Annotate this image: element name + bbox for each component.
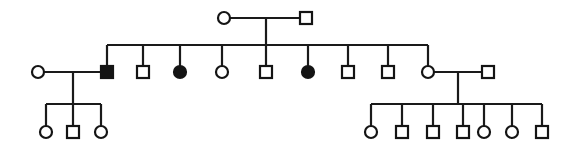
affected-male-symbol[interactable] (101, 66, 113, 78)
unaffected-female-symbol[interactable] (478, 126, 490, 138)
unaffected-female-symbol[interactable] (422, 66, 434, 78)
unaffected-female-symbol[interactable] (365, 126, 377, 138)
unaffected-male-symbol[interactable] (137, 66, 149, 78)
unaffected-male-symbol[interactable] (396, 126, 408, 138)
pedigree-chart (0, 0, 576, 149)
unaffected-female-symbol[interactable] (40, 126, 52, 138)
affected-female-symbol[interactable] (302, 66, 314, 78)
unaffected-male-symbol[interactable] (427, 126, 439, 138)
unaffected-male-symbol[interactable] (300, 12, 312, 24)
unaffected-male-symbol[interactable] (67, 126, 79, 138)
unaffected-female-symbol[interactable] (32, 66, 44, 78)
unaffected-male-symbol[interactable] (342, 66, 354, 78)
unaffected-male-symbol[interactable] (260, 66, 272, 78)
pedigree-canvas (0, 0, 576, 149)
unaffected-female-symbol[interactable] (95, 126, 107, 138)
affected-female-symbol[interactable] (174, 66, 186, 78)
unaffected-female-symbol[interactable] (218, 12, 230, 24)
unaffected-male-symbol[interactable] (482, 66, 494, 78)
unaffected-female-symbol[interactable] (216, 66, 228, 78)
unaffected-male-symbol[interactable] (457, 126, 469, 138)
unaffected-male-symbol[interactable] (382, 66, 394, 78)
unaffected-female-symbol[interactable] (506, 126, 518, 138)
unaffected-male-symbol[interactable] (536, 126, 548, 138)
